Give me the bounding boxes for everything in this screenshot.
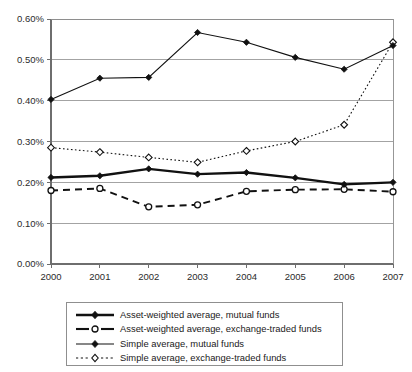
- data-point-marker: [390, 179, 396, 185]
- data-point-marker: [48, 144, 55, 151]
- legend-item-simple-average-etf: Simple average, exchange-traded funds: [73, 351, 336, 365]
- data-point-marker: [146, 204, 152, 210]
- x-tick-label: 2002: [138, 271, 159, 282]
- legend-key-dotted-open-diamond: [73, 351, 117, 365]
- y-tick-label: 0.00%: [17, 258, 44, 269]
- legend-label: Asset-weighted average, exchange-traded …: [117, 322, 322, 336]
- data-point-marker: [243, 188, 249, 194]
- data-point-marker: [195, 202, 201, 208]
- data-point-marker: [48, 96, 54, 102]
- data-point-marker: [48, 174, 54, 180]
- data-point-marker: [341, 121, 348, 128]
- data-point-marker: [292, 175, 298, 181]
- x-axis-ticks: 20002001200220032004200520062007: [40, 264, 403, 282]
- series-3: [48, 29, 396, 102]
- data-point-marker: [243, 147, 250, 154]
- legend-item-asset-weighted-etf: Asset-weighted average, exchange-traded …: [73, 322, 336, 336]
- legend-label: Simple average, mutual funds: [117, 337, 244, 351]
- data-point-marker: [97, 185, 103, 191]
- y-tick-label: 0.30%: [17, 136, 44, 147]
- x-tick-label: 2001: [89, 271, 110, 282]
- legend-label: Simple average, exchange-traded funds: [117, 351, 286, 365]
- legend-key-solid-thin-filled-diamond: [73, 337, 117, 351]
- legend-key-solid-thick-filled-diamond: [73, 308, 117, 322]
- gridlines: [51, 19, 393, 223]
- x-tick-label: 2006: [334, 271, 355, 282]
- data-point-marker: [194, 171, 200, 177]
- x-tick-label: 2000: [40, 271, 61, 282]
- data-series: [48, 29, 397, 209]
- data-point-marker: [243, 169, 249, 175]
- series-line: [51, 32, 393, 99]
- x-tick-label: 2005: [285, 271, 306, 282]
- data-point-marker: [97, 75, 103, 81]
- chart-legend: Asset-weighted average, mutual funds Ass…: [66, 302, 343, 366]
- series-2: [48, 185, 396, 209]
- data-point-marker: [48, 188, 54, 194]
- line-chart-plot: 0.00%0.10%0.20%0.30%0.40%0.50%0.60% 2000…: [0, 0, 412, 300]
- data-point-marker: [146, 166, 152, 172]
- x-tick-label: 2004: [236, 271, 257, 282]
- data-point-marker: [390, 189, 396, 195]
- data-point-marker: [341, 66, 347, 72]
- series-line: [51, 42, 393, 162]
- data-point-marker: [292, 138, 299, 145]
- y-tick-label: 0.40%: [17, 95, 44, 106]
- legend-item-simple-average-mutual-funds: Simple average, mutual funds: [73, 337, 336, 351]
- data-point-marker: [292, 187, 298, 193]
- data-point-marker: [194, 159, 201, 166]
- legend-key-dashed-open-circle: [73, 322, 117, 336]
- y-tick-label: 0.60%: [17, 13, 44, 24]
- data-point-marker: [96, 149, 103, 156]
- y-tick-label: 0.50%: [17, 54, 44, 65]
- data-point-marker: [145, 154, 152, 161]
- legend-item-asset-weighted-mutual-funds: Asset-weighted average, mutual funds: [73, 308, 336, 322]
- data-point-marker: [243, 39, 249, 45]
- legend-label: Asset-weighted average, mutual funds: [117, 308, 279, 322]
- y-tick-label: 0.20%: [17, 177, 44, 188]
- x-tick-label: 2003: [187, 271, 208, 282]
- y-tick-label: 0.10%: [17, 218, 44, 229]
- series-1: [48, 166, 396, 188]
- y-axis-ticks: 0.00%0.10%0.20%0.30%0.40%0.50%0.60%: [17, 13, 51, 269]
- x-tick-label: 2007: [382, 271, 403, 282]
- data-point-marker: [97, 173, 103, 179]
- series-4: [48, 39, 397, 166]
- chart-container: 0.00%0.10%0.20%0.30%0.40%0.50%0.60% 2000…: [0, 0, 412, 372]
